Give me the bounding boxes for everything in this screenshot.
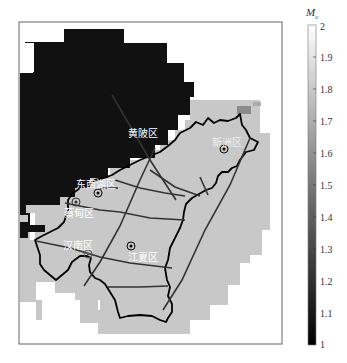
mc-map xyxy=(0,0,347,363)
colorbar-tick-label: 1.3 xyxy=(320,244,333,255)
district-label-hannan: 汉南区 xyxy=(63,237,93,252)
colorbar-tick-label: 1 xyxy=(320,339,325,350)
district-label-jiangxia: 江夏区 xyxy=(128,249,158,264)
colorbar-tick-label: 1.7 xyxy=(320,116,333,127)
colorbar-tick-label: 1.1 xyxy=(320,308,333,319)
colorbar-title: Mc xyxy=(306,6,318,21)
colorbar-tick-label: 1.2 xyxy=(320,276,333,287)
colorbar-tick-label: 1.9 xyxy=(320,52,333,63)
district-label-dongxihu: 东西湖区 xyxy=(76,176,116,191)
district-label-huangpi: 黄陂区 xyxy=(128,125,158,140)
district-label-caidian: 蔡甸区 xyxy=(64,205,94,220)
colorbar-tick-label: 1.5 xyxy=(320,180,333,191)
colorbar-tick-label: 1.4 xyxy=(320,212,333,223)
colorbar-tick-label: 1.8 xyxy=(320,84,333,95)
colorbar-tick-label: 1.6 xyxy=(320,148,333,159)
district-label-xinzhou: 新洲区 xyxy=(212,134,242,149)
colorbar-tick-label: 2 xyxy=(320,21,325,32)
patch-mid xyxy=(237,106,251,114)
